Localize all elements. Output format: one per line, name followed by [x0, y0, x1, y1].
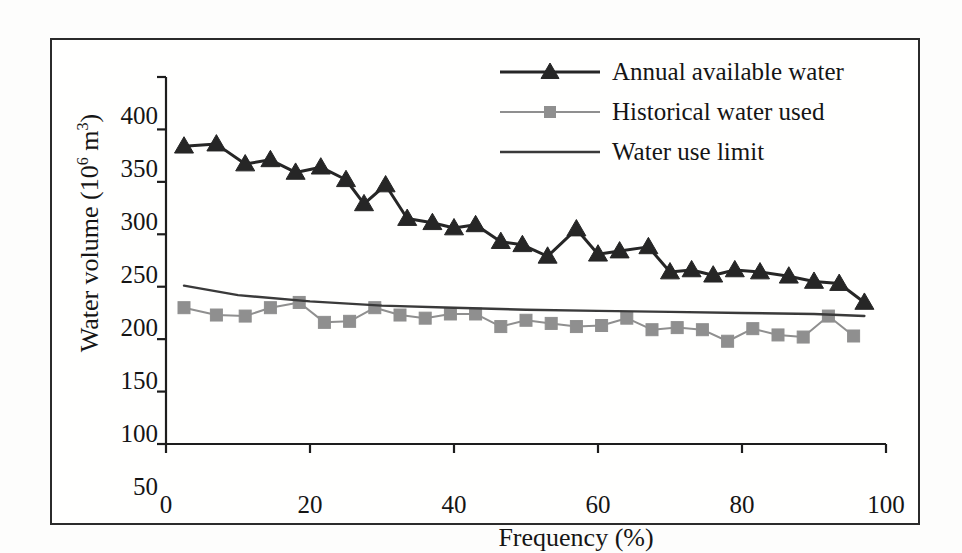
chart-frame: 400 350 300 250 200 150 100 50 0 20 40 6… — [50, 38, 920, 525]
ytick-label-100: 100 — [98, 421, 158, 446]
xtick-label-0: 0 — [136, 492, 196, 517]
y-axis-title-prefix: Water volume (10 — [75, 165, 104, 352]
figure-container: 400 350 300 250 200 150 100 50 0 20 40 6… — [0, 0, 962, 553]
xtick-label-40: 40 — [424, 492, 484, 517]
ytick-label-200: 200 — [98, 315, 158, 340]
y-axis-title-suffix: ) — [75, 114, 104, 123]
legend-layer — [500, 63, 600, 152]
xtick-label-60: 60 — [568, 492, 628, 517]
xtick-label-20: 20 — [280, 492, 340, 517]
series-layer — [175, 135, 874, 348]
y-axis-title-mid: m — [75, 130, 104, 157]
y-axis-title-exponent: 6 — [74, 157, 91, 165]
ytick-label-150: 150 — [98, 368, 158, 393]
y-axis-title-unit-exponent: 3 — [74, 122, 91, 130]
xtick-label-100: 100 — [856, 492, 916, 517]
axis-layer — [157, 77, 886, 453]
ytick-label-250: 250 — [98, 262, 158, 287]
ytick-label-350: 350 — [98, 156, 158, 181]
y-axis-title: Water volume (106 m3) — [75, 53, 105, 413]
legend-label-water-use-limit: Water use limit — [612, 138, 764, 166]
ytick-label-300: 300 — [98, 209, 158, 234]
xtick-label-80: 80 — [712, 492, 772, 517]
x-axis-title: Frequency (%) — [216, 523, 936, 553]
ytick-label-400: 400 — [98, 103, 158, 128]
legend-label-historical-water-used: Historical water used — [612, 98, 824, 126]
legend-label-annual-available-water: Annual available water — [612, 58, 844, 86]
